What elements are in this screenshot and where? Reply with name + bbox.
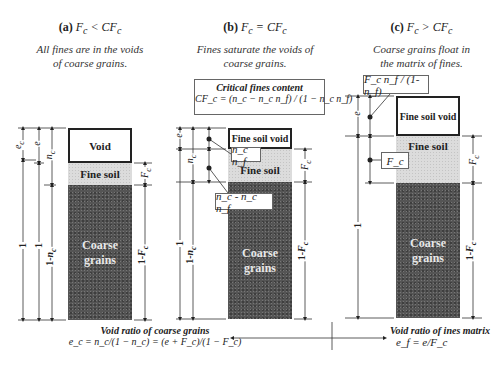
dim-c-1-minus-fc: 1-Fc [464, 241, 478, 262]
dim-c-e: e [351, 110, 362, 116]
dim-a-fc: Fc [139, 167, 153, 179]
dim-b-e: e [173, 132, 184, 138]
void-ratio-fines-formula: e_f = e/F_c [390, 336, 503, 348]
dim-b-1-minus-nc: 1-nc [184, 245, 198, 265]
dim-b-nc: nc [184, 154, 198, 165]
dim-a-1-inner: 1 [33, 242, 44, 249]
dim-b-1-minus-fc: 1-Fc [296, 241, 310, 262]
dim-a-e: e [31, 140, 42, 146]
dim-a-ec: ec [12, 140, 26, 150]
dim-a-1-minus-nc: 1-nc [44, 247, 58, 267]
dim-a-nc: nc [43, 150, 57, 161]
dim-a-1-outer: 1 [17, 242, 28, 249]
dim-a-1-minus-fc: 1-Fc [136, 245, 150, 266]
void-ratio-coarse: Void ratio of coarse grains e_c = n_c/(1… [60, 325, 250, 347]
void-ratio-coarse-formula: e_c = n_c/(1 − n_c) = (e + F_c)/(1 − F_c… [60, 336, 250, 347]
dim-c-fc: Fc [467, 154, 481, 166]
void-ratio-fines: Void ratio of ines matrix e_f = e/F_c [390, 325, 503, 348]
dim-b-fc: Fc [299, 159, 313, 171]
void-ratio-coarse-title: Void ratio of coarse grains [60, 325, 250, 336]
void-ratio-fines-title: Void ratio of ines matrix [390, 325, 503, 336]
dim-c-1: 1 [352, 222, 363, 229]
dimension-lines [0, 0, 503, 372]
